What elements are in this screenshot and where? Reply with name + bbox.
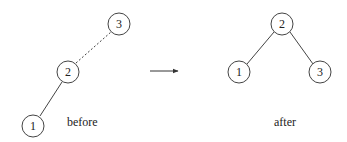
after-node-3: 3 — [309, 61, 331, 83]
before-node-2: 2 — [57, 61, 79, 83]
svg-text:3: 3 — [317, 65, 323, 79]
diagram-svg: 3 2 1 before 2 1 — [0, 0, 347, 142]
after-edge-2-1 — [247, 32, 274, 64]
svg-text:3: 3 — [116, 17, 122, 31]
after-edge-2-3 — [290, 32, 313, 64]
before-node-3: 3 — [108, 13, 130, 35]
svg-text:2: 2 — [65, 65, 71, 79]
after-tree: 2 1 3 after — [228, 13, 331, 129]
svg-text:1: 1 — [236, 65, 242, 79]
svg-text:2: 2 — [279, 17, 285, 31]
after-caption: after — [274, 115, 296, 129]
tree-rotation-diagram: 3 2 1 before 2 1 — [0, 0, 347, 142]
after-node-2: 2 — [271, 13, 293, 35]
before-edge-2-1 — [40, 82, 62, 116]
after-node-1: 1 — [228, 61, 250, 83]
before-edge-2-3-dashed — [76, 32, 111, 63]
before-caption: before — [67, 115, 98, 129]
before-tree: 3 2 1 before — [22, 13, 130, 137]
svg-text:1: 1 — [30, 119, 36, 133]
before-node-1: 1 — [22, 115, 44, 137]
